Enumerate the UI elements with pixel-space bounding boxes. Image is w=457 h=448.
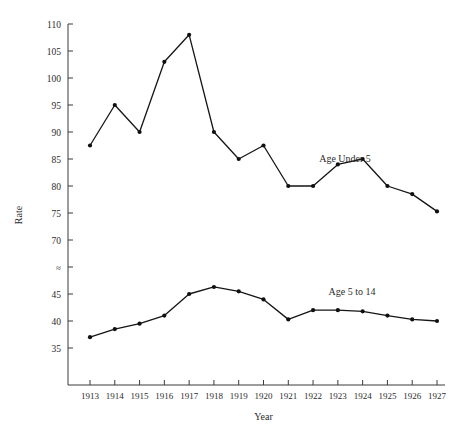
data-point-marker	[187, 292, 191, 296]
x-tick-label: 1927	[428, 391, 447, 401]
y-tick-label: 105	[47, 47, 62, 57]
y-tick-label: 95	[52, 101, 62, 111]
y-tick-label: 110	[47, 20, 61, 30]
data-point-marker	[361, 309, 365, 313]
data-point-marker	[212, 130, 216, 134]
data-point-marker	[88, 143, 92, 147]
series-line-2	[90, 287, 437, 337]
x-axis-title: Year	[254, 411, 273, 422]
x-tick-label: 1914	[106, 391, 125, 401]
x-tick-label: 1918	[205, 391, 224, 401]
y-axis-break-symbol: ≈	[56, 263, 61, 273]
y-tick-label: 45	[52, 290, 62, 300]
data-point-marker	[410, 192, 414, 196]
data-point-marker	[435, 209, 439, 213]
x-tick-label: 1917	[180, 391, 199, 401]
data-point-marker	[385, 184, 389, 188]
series-annotations: Age Under 5Age 5 to 14	[319, 153, 375, 297]
data-point-marker	[137, 322, 141, 326]
x-tick-label: 1925	[378, 391, 397, 401]
x-tick-label: 1915	[131, 391, 150, 401]
x-tick-label: 1924	[354, 391, 373, 401]
x-tick-label: 1921	[279, 391, 297, 401]
y-tick-label: 40	[52, 317, 62, 327]
data-point-marker	[336, 308, 340, 312]
series-label-1: Age Under 5	[319, 153, 371, 164]
data-point-marker	[385, 314, 389, 318]
data-point-marker	[435, 319, 439, 323]
data-point-marker	[88, 335, 92, 339]
data-point-marker	[410, 317, 414, 321]
data-point-marker	[113, 103, 117, 107]
x-tick-label: 1916	[155, 391, 174, 401]
data-point-marker	[137, 130, 141, 134]
y-tick-label: 70	[52, 236, 62, 246]
data-point-marker	[162, 314, 166, 318]
x-tick-label: 1919	[230, 391, 249, 401]
x-tick-label: 1922	[304, 391, 322, 401]
y-axis-title: Rate	[13, 205, 24, 224]
data-series-group	[88, 33, 439, 340]
y-tick-label: 80	[52, 182, 62, 192]
data-point-marker	[261, 297, 265, 301]
y-axis: 110105100959085807570≈454035	[47, 20, 73, 386]
series-line-1	[90, 35, 437, 212]
data-point-marker	[261, 143, 265, 147]
y-tick-label: 35	[52, 344, 62, 354]
x-tick-label: 1913	[81, 391, 100, 401]
data-point-marker	[237, 289, 241, 293]
data-point-marker	[187, 33, 191, 37]
chart-plot-area: 110105100959085807570≈454035 19131914191…	[0, 0, 457, 448]
data-point-marker	[237, 157, 241, 161]
data-point-marker	[212, 285, 216, 289]
data-point-marker	[113, 327, 117, 331]
x-tick-label: 1926	[403, 391, 422, 401]
data-point-marker	[311, 184, 315, 188]
x-tick-label: 1923	[329, 391, 348, 401]
line-chart: 110105100959085807570≈454035 19131914191…	[0, 0, 457, 448]
series-label-2: Age 5 to 14	[329, 286, 376, 297]
data-point-marker	[286, 184, 290, 188]
x-axis: 1913191419151916191719181919192019211922…	[68, 380, 447, 401]
y-tick-label: 100	[47, 74, 62, 84]
x-tick-label: 1920	[255, 391, 274, 401]
data-point-marker	[286, 317, 290, 321]
y-tick-label: 75	[52, 209, 62, 219]
y-tick-label: 85	[52, 155, 62, 165]
data-point-marker	[162, 60, 166, 64]
data-point-marker	[311, 308, 315, 312]
y-tick-label: 90	[52, 128, 62, 138]
